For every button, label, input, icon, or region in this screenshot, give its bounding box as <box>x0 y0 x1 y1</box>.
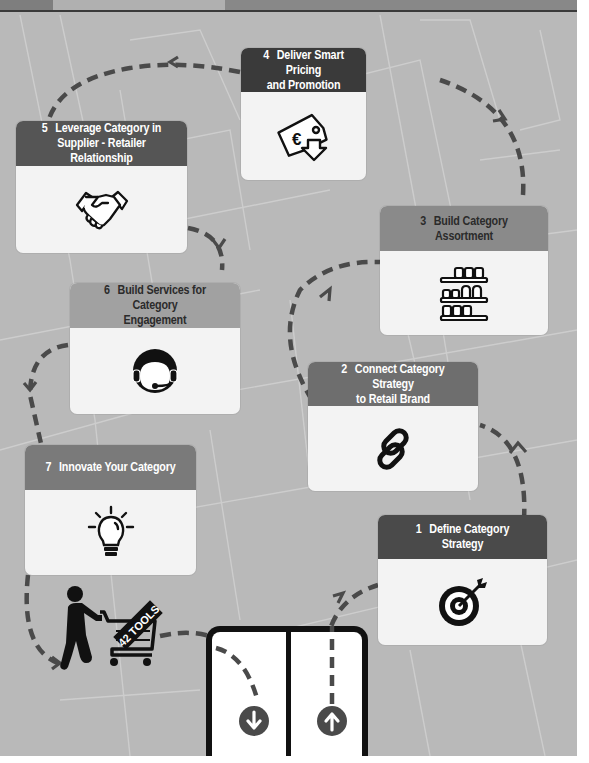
arrowhead-door-step1 <box>333 593 343 603</box>
step-2-header: 2Connect Category Strategy to Retail Bra… <box>308 362 478 406</box>
arrowhead-step1-2 <box>510 443 526 453</box>
step-card-2: 2Connect Category Strategy to Retail Bra… <box>308 362 478 491</box>
arrowhead-step2-3 <box>320 289 330 301</box>
step-6-title-line2: Engagement <box>87 313 223 328</box>
step-4-number: 4 <box>263 48 269 62</box>
step-card-6: 6Build Services for Category Engagement <box>70 283 240 414</box>
step-2-body <box>308 406 478 491</box>
door-path-segment <box>206 626 368 716</box>
target-icon <box>437 576 489 628</box>
step-4-title-line2: and Promotion <box>255 78 352 93</box>
step-2-title-line2: to Retail Brand <box>325 392 461 407</box>
step-5-body <box>16 166 187 253</box>
step-card-3: 3Build Category Assortment <box>380 206 548 335</box>
step-4-title-line1: Deliver Smart Pricing <box>277 48 344 77</box>
step-3-number: 3 <box>420 214 426 228</box>
step-1-title: Define Category Strategy <box>429 522 509 551</box>
step-card-1: 1Define Category Strategy <box>378 515 547 645</box>
path-step6-to-step7 <box>30 345 68 448</box>
step-6-body <box>70 328 240 414</box>
svg-text:€: € <box>292 130 302 149</box>
path-step7-to-shopper <box>27 575 60 664</box>
path-step5-to-step6 <box>188 228 222 270</box>
step-2-number: 2 <box>341 362 347 376</box>
step-5-header: 5Leverage Category in Supplier - Retaile… <box>16 121 187 166</box>
shelves-icon <box>438 264 490 322</box>
step-5-number: 5 <box>42 121 48 135</box>
lightbulb-icon <box>86 505 136 561</box>
step-7-body <box>25 490 196 575</box>
step-1-header: 1Define Category Strategy <box>378 515 547 559</box>
path-step1-to-step2 <box>480 425 524 520</box>
step-7-header: 7Innovate Your Category <box>25 445 196 490</box>
step-6-header: 6Build Services for Category Engagement <box>70 283 240 328</box>
step-3-body <box>380 251 548 335</box>
path-step4-to-step5 <box>48 65 240 122</box>
step-4-body: € <box>241 92 366 180</box>
step-7-number: 7 <box>45 460 51 474</box>
path-step3-to-step4 <box>440 80 523 195</box>
arrowhead-step5-6 <box>213 239 225 248</box>
step-card-4: 4Deliver Smart Pricing and Promotion € <box>241 48 366 180</box>
step-card-5: 5Leverage Category in Supplier - Retaile… <box>16 121 187 253</box>
step-6-title-line1: Build Services for Category <box>118 283 206 312</box>
step-6-number: 6 <box>104 283 110 297</box>
step-3-header: 3Build Category Assortment <box>380 206 548 251</box>
step-7-title: Innovate Your Category <box>59 460 175 474</box>
step-card-7: 7Innovate Your Category <box>25 445 196 575</box>
diagram-canvas: 4Deliver Smart Pricing and Promotion € 5… <box>0 0 577 756</box>
handshake-icon <box>74 189 130 231</box>
store-door <box>206 626 368 756</box>
chain-link-icon <box>370 426 416 472</box>
step-2-title-line1: Connect Category Strategy <box>355 362 445 391</box>
step-5-title-line1: Leverage Category in <box>55 121 161 135</box>
step-4-header: 4Deliver Smart Pricing and Promotion <box>241 48 366 92</box>
step-3-title: Build Category Assortment <box>434 214 508 243</box>
step-1-body <box>378 559 547 645</box>
step-5-title-line2: Supplier - Retailer Relationship <box>33 136 170 166</box>
shopper-cart-icon: 42 TOOLS <box>60 585 180 685</box>
euro-price-tag-icon: € <box>274 108 334 164</box>
headset-icon <box>130 346 180 396</box>
step-1-number: 1 <box>416 522 422 536</box>
arrowhead-step4-5 <box>170 57 178 67</box>
